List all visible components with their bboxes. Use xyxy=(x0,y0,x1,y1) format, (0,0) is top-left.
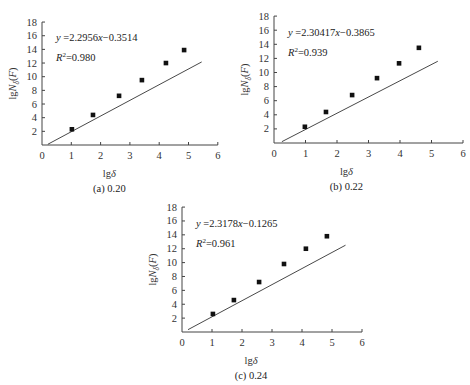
y-tick-label: 18 xyxy=(167,202,178,213)
x-tick-label: 6 xyxy=(359,337,364,348)
y-tick-label: 8 xyxy=(172,271,177,282)
x-tick-label: 1 xyxy=(209,337,214,348)
x-tick-label: 2 xyxy=(334,148,339,159)
data-point xyxy=(325,234,330,239)
fit-line xyxy=(48,62,202,144)
panel-caption: (b) 0.22 xyxy=(330,181,363,193)
x-tick-label: 5 xyxy=(329,337,334,348)
x-tick-label: 4 xyxy=(157,150,163,161)
x-tick-label: 1 xyxy=(303,148,308,159)
data-point xyxy=(232,298,237,303)
x-tick-label: 0 xyxy=(39,150,44,161)
y-tick-label: 16 xyxy=(259,25,270,36)
data-point xyxy=(70,127,75,132)
x-tick-label: 0 xyxy=(271,148,276,159)
data-point xyxy=(257,280,262,285)
y-tick-label: 12 xyxy=(167,243,178,254)
x-tick-label: 0 xyxy=(179,337,184,348)
data-point xyxy=(375,76,380,81)
x-axis-title: lgδ xyxy=(244,355,258,366)
y-tick-label: 10 xyxy=(259,67,270,78)
y-tick-label: 14 xyxy=(27,44,38,55)
x-axis-title: lgδ xyxy=(340,166,354,177)
figure: 012345624681012141618y =2.2956x−0.3514R2… xyxy=(0,0,470,385)
data-point xyxy=(117,94,122,99)
chart-panel-c: 012345624681012141618y =2.3178x−0.1265R2… xyxy=(147,202,365,382)
y-tick-label: 10 xyxy=(167,257,178,268)
y-tick-label: 8 xyxy=(32,85,37,96)
y-tick-label: 14 xyxy=(259,39,270,50)
data-point xyxy=(282,262,287,267)
x-tick-label: 5 xyxy=(429,148,434,159)
data-point xyxy=(140,78,145,83)
panel-caption: (c) 0.24 xyxy=(235,370,268,382)
r-squared: R2=0.961 xyxy=(195,237,235,249)
chart-panel-a: 012345624681012141618y =2.2956x−0.3514R2… xyxy=(7,17,220,195)
data-point xyxy=(324,110,329,115)
y-tick-label: 12 xyxy=(259,53,270,64)
regression-equation: y =2.30417x−0.3865 xyxy=(287,27,375,38)
panel-caption: (a) 0.20 xyxy=(93,183,126,195)
y-tick-label: 2 xyxy=(32,126,37,137)
y-tick-label: 16 xyxy=(167,215,178,226)
x-tick-label: 5 xyxy=(186,150,191,161)
x-tick-label: 2 xyxy=(239,337,244,348)
y-tick-label: 6 xyxy=(264,95,269,106)
data-point xyxy=(211,312,216,317)
regression-equation: y =2.3178x−0.1265 xyxy=(195,218,278,229)
x-tick-label: 1 xyxy=(69,150,74,161)
regression-equation: y =2.2956x−0.3514 xyxy=(55,32,138,43)
r-squared: R2=0.980 xyxy=(55,51,95,63)
y-axis-title: lgNδ(F) xyxy=(7,67,21,100)
y-tick-label: 12 xyxy=(27,58,38,69)
y-tick-label: 8 xyxy=(264,81,269,92)
y-tick-label: 2 xyxy=(264,123,269,134)
data-point xyxy=(164,61,169,66)
fit-line xyxy=(282,61,438,141)
y-tick-label: 6 xyxy=(172,285,177,296)
r-squared: R2=0.939 xyxy=(287,46,327,58)
y-tick-label: 10 xyxy=(27,71,38,82)
data-point xyxy=(303,124,308,129)
data-point xyxy=(417,46,422,51)
data-point xyxy=(91,113,96,118)
y-tick-label: 6 xyxy=(32,99,37,110)
y-tick-label: 16 xyxy=(27,30,38,41)
y-tick-label: 14 xyxy=(167,229,178,240)
y-tick-label: 2 xyxy=(172,313,177,324)
x-tick-label: 2 xyxy=(98,150,103,161)
x-tick-label: 6 xyxy=(460,148,465,159)
x-tick-label: 3 xyxy=(269,337,274,348)
x-axis-title: lgδ xyxy=(103,168,117,179)
x-tick-label: 3 xyxy=(366,148,371,159)
fit-line xyxy=(188,245,346,329)
x-tick-label: 4 xyxy=(299,337,305,348)
y-tick-label: 4 xyxy=(264,109,270,120)
x-tick-label: 6 xyxy=(215,150,220,161)
y-axis-title: lgNδ(F) xyxy=(147,253,161,286)
data-point xyxy=(350,93,355,98)
y-tick-label: 4 xyxy=(172,299,178,310)
y-tick-label: 18 xyxy=(27,17,38,28)
y-tick-label: 18 xyxy=(259,11,270,22)
data-point xyxy=(182,48,187,53)
y-axis-title: lgNδ(F) xyxy=(239,63,253,96)
x-tick-label: 3 xyxy=(127,150,132,161)
x-tick-label: 4 xyxy=(397,148,403,159)
data-point xyxy=(397,61,402,66)
y-tick-label: 4 xyxy=(32,112,38,123)
data-point xyxy=(304,246,309,251)
chart-panel-b: 012345624681012141618y =2.30417x−0.3865R… xyxy=(239,11,466,193)
